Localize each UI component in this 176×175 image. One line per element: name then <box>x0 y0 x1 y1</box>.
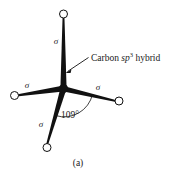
bond-left-stick <box>17 86 64 97</box>
annotation-suffix: hybrid <box>133 53 160 63</box>
sigma-label-top: σ <box>54 36 59 46</box>
sigma-label-left: σ <box>25 80 30 90</box>
annotation-orbital-type: sp <box>121 53 130 63</box>
carbon-nucleus <box>59 84 68 93</box>
carbon-hybrid-annotation: Carbon sp3 hybrid <box>91 51 160 63</box>
sp3-hybrid-orbital-figure: σ σ σ σ 109° Carbon sp3 hybrid (a) <box>0 0 176 175</box>
sigma-label-bottom-left: σ <box>39 119 44 129</box>
annotation-leader-line <box>68 58 89 72</box>
orbital-lobe-right <box>115 97 123 105</box>
orbital-lobe-top <box>60 10 68 18</box>
orbital-lobe-bottom-left <box>43 144 51 152</box>
sigma-label-right: σ <box>96 82 101 92</box>
bond-top-stick <box>60 16 66 89</box>
annotation-prefix: Carbon <box>91 53 121 63</box>
orbital-diagram-canvas: σ σ σ σ 109° Carbon sp3 hybrid (a) <box>0 0 176 175</box>
orbital-lobe-left <box>11 92 19 100</box>
bond-angle-label: 109° <box>61 110 79 120</box>
bond-right-stick <box>64 86 117 102</box>
figure-caption: (a) <box>73 158 84 169</box>
annotation-arrowhead-icon <box>66 70 72 73</box>
